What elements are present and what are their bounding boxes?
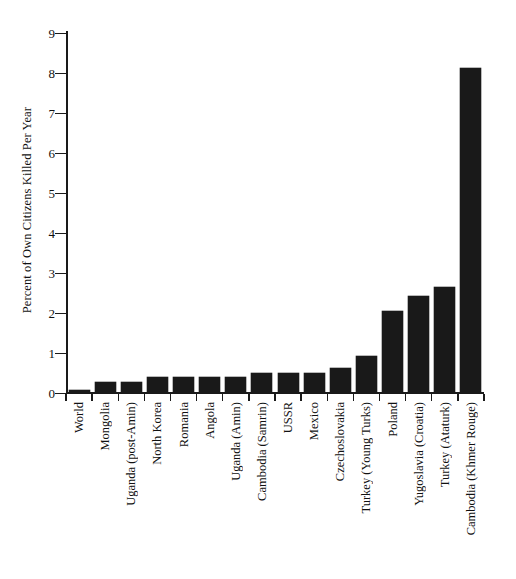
x-tick-label: Turkey (Ataturk) xyxy=(438,402,453,487)
bar-slot xyxy=(95,33,116,393)
x-axis-tick-labels: WorldMongoliaUganda (post-Amin)North Kor… xyxy=(66,402,484,577)
bar-chart-figure: Percent of Own Citizens Killed Per Year … xyxy=(0,0,516,579)
y-tick-mark xyxy=(55,273,66,274)
x-tick-mark xyxy=(300,394,301,401)
y-tick-label: 4 xyxy=(33,227,55,240)
x-tick-label: World xyxy=(72,402,87,433)
bar-slot xyxy=(304,33,325,393)
x-tick-mark xyxy=(379,394,380,401)
y-tick-label: 1 xyxy=(33,347,55,360)
y-axis-label: Percent of Own Citizens Killed Per Year xyxy=(20,107,35,313)
x-tick-label: Uganda (Amin) xyxy=(229,402,244,481)
bar-series xyxy=(66,33,484,393)
bar xyxy=(382,311,403,393)
y-tick-mark xyxy=(55,113,66,114)
bar-slot xyxy=(121,33,142,393)
bar-slot xyxy=(147,33,168,393)
y-tick-label: 7 xyxy=(33,107,55,120)
x-tick-label: Angola xyxy=(203,402,218,439)
x-tick-label: North Korea xyxy=(150,402,165,465)
x-tick-label: USSR xyxy=(281,402,296,433)
x-tick-label: Cambodia (Khmer Rouge) xyxy=(464,402,479,535)
x-tick-mark xyxy=(483,394,484,401)
bar-slot xyxy=(225,33,246,393)
x-tick-label: Czechoslovakia xyxy=(333,402,348,481)
bar xyxy=(173,377,194,393)
y-tick-mark xyxy=(55,233,66,234)
bar-slot xyxy=(251,33,272,393)
x-tick-label: Mongolia xyxy=(98,402,113,451)
x-tick-mark xyxy=(144,394,145,401)
bar xyxy=(304,373,325,393)
bar xyxy=(330,368,351,393)
x-tick-label: Turkey (Young Turks) xyxy=(359,402,374,514)
x-tick-mark xyxy=(248,394,249,401)
y-tick-label: 2 xyxy=(33,307,55,320)
bar-slot xyxy=(330,33,351,393)
bar xyxy=(434,287,455,393)
y-tick-mark xyxy=(55,33,66,34)
bar xyxy=(356,356,377,393)
bar-slot xyxy=(408,33,429,393)
y-tick-label: 8 xyxy=(33,67,55,80)
y-tick-label: 9 xyxy=(33,27,55,40)
x-tick-mark xyxy=(457,394,458,401)
x-tick-mark xyxy=(170,394,171,401)
x-tick-label: Uganda (post-Amin) xyxy=(124,402,139,506)
bar-slot xyxy=(278,33,299,393)
x-tick-label: Cambodia (Samrin) xyxy=(255,402,270,501)
bar xyxy=(251,373,272,393)
x-tick-mark xyxy=(118,394,119,401)
y-tick-label: 3 xyxy=(33,267,55,280)
plot-area: 0123456789 xyxy=(66,33,484,393)
bar-slot xyxy=(199,33,220,393)
bar xyxy=(225,377,246,393)
y-tick-mark xyxy=(55,193,66,194)
y-tick-label: 0 xyxy=(33,387,55,400)
bar-slot xyxy=(69,33,90,393)
bar xyxy=(278,373,299,393)
bar-slot xyxy=(382,33,403,393)
bar-slot xyxy=(173,33,194,393)
bar-slot xyxy=(356,33,377,393)
x-tick-mark xyxy=(327,394,328,401)
bar xyxy=(408,296,429,393)
x-tick-label: Yugoslavia (Croatia) xyxy=(412,402,427,506)
x-tick-mark xyxy=(405,394,406,401)
bar-slot xyxy=(460,33,481,393)
bar xyxy=(460,68,481,393)
bar xyxy=(69,390,90,393)
x-tick-label: Poland xyxy=(386,402,401,437)
bar xyxy=(147,377,168,393)
x-tick-mark xyxy=(65,394,66,401)
y-tick-mark xyxy=(55,313,66,314)
bar xyxy=(199,377,220,393)
x-tick-mark xyxy=(431,394,432,401)
y-tick-label: 5 xyxy=(33,187,55,200)
y-tick-mark xyxy=(55,153,66,154)
x-tick-mark xyxy=(353,394,354,401)
x-tick-mark xyxy=(222,394,223,401)
bar-slot xyxy=(434,33,455,393)
x-tick-label: Mexico xyxy=(307,402,322,440)
bar xyxy=(95,382,116,393)
x-tick-mark xyxy=(196,394,197,401)
y-tick-mark xyxy=(55,353,66,354)
bar xyxy=(121,382,142,393)
x-tick-mark xyxy=(91,394,92,401)
y-tick-mark xyxy=(55,73,66,74)
x-tick-mark xyxy=(274,394,275,401)
y-tick-label: 6 xyxy=(33,147,55,160)
x-tick-label: Romania xyxy=(177,402,192,447)
